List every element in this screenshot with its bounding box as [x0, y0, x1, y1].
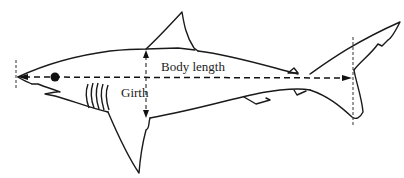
girth-label: Girth	[121, 85, 148, 101]
girth-arrow-top	[143, 50, 149, 58]
body-length-arrow-right	[342, 75, 352, 81]
first-dorsal-fin	[146, 12, 198, 51]
pelvic-fin	[244, 97, 270, 104]
ventral-outline	[150, 89, 310, 118]
caudal-fin-upper	[310, 22, 400, 74]
head-underside	[18, 77, 108, 112]
shark-diagram	[0, 0, 404, 178]
girth-arrow-bottom	[143, 110, 149, 118]
pectoral-fin	[108, 112, 150, 173]
body-length-line	[24, 77, 345, 78]
body-length-label: Body length	[161, 59, 225, 75]
